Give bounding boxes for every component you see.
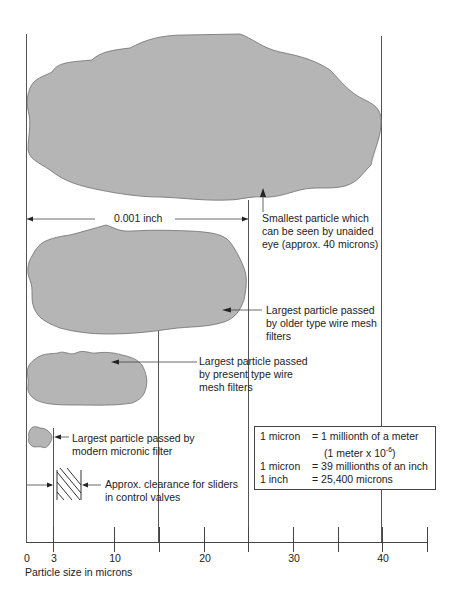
- tick-label-0: 0: [24, 552, 30, 564]
- x-axis-ticks: [54, 527, 428, 552]
- tick-label-20: 20: [199, 552, 211, 564]
- dimension-label: 0.001 inch: [114, 212, 162, 225]
- clearance-hatch: [57, 468, 81, 500]
- particle-shape-small: [27, 351, 146, 405]
- tick-label-10: 10: [109, 552, 121, 564]
- particle-shape-tiny: [28, 427, 51, 448]
- label-present-wire-mesh: Largest particle passed by present type …: [199, 355, 308, 394]
- label-visible-eye: Smallest particle which can be seen by u…: [262, 212, 378, 251]
- label-older-wire-mesh: Largest particle passed by older type wi…: [266, 304, 377, 343]
- tick-label-30: 30: [288, 552, 300, 564]
- particle-shape-medium: [28, 225, 246, 334]
- unit-conversion-legend: 1 micron = 1 millionth of a meter (1 met…: [254, 426, 436, 490]
- label-micronic-filter: Largest particle passed by modern micron…: [72, 432, 195, 458]
- particle-size-diagram: [0, 0, 452, 602]
- tick-label-40: 40: [377, 552, 389, 564]
- tick-label-3: 3: [51, 552, 57, 564]
- label-slider-clearance: Approx. clearance for sliders in control…: [105, 478, 238, 504]
- particle-shape-large: [27, 34, 381, 200]
- x-axis-title: Particle size in microns: [25, 566, 132, 578]
